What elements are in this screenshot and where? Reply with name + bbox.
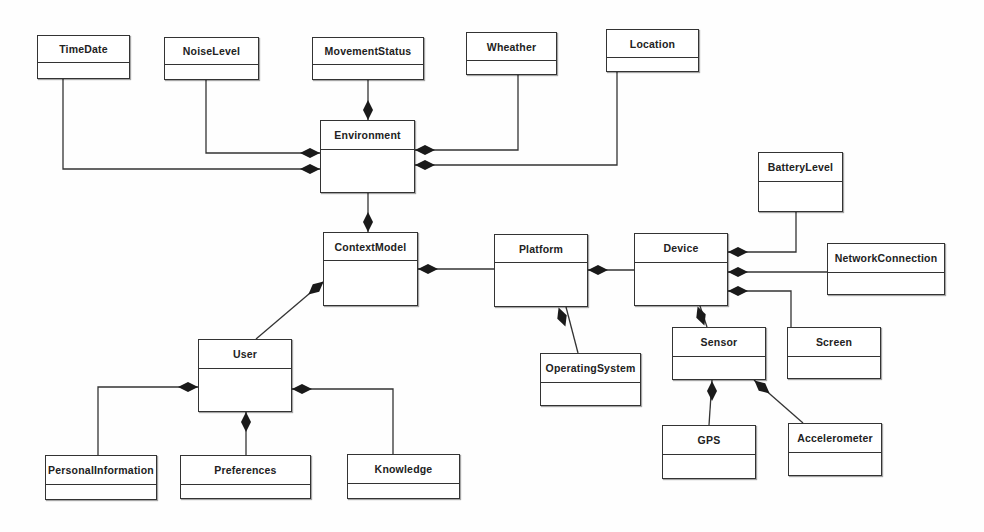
composition-diamond-icon (300, 148, 320, 158)
class-attributes-compartment (673, 357, 765, 379)
class-attributes-compartment (165, 65, 258, 79)
class-box-device[interactable]: Device (634, 233, 728, 306)
class-box-environment[interactable]: Environment (320, 120, 415, 193)
composition-contextmodel-environment (363, 193, 373, 232)
class-box-personalinformation[interactable]: PersonalInformation (45, 455, 157, 500)
composition-device-batterylevel (728, 212, 796, 257)
class-name: Accelerometer (789, 424, 881, 453)
class-name: Wheather (467, 33, 556, 61)
class-name: NoiseLevel (165, 38, 258, 65)
class-name: OperatingSystem (541, 354, 640, 383)
class-name: BatteryLevel (759, 153, 842, 182)
composition-user-preferences (241, 412, 251, 455)
class-box-preferences[interactable]: Preferences (180, 455, 311, 499)
class-attributes-compartment (495, 263, 587, 306)
class-box-contextmodel[interactable]: ContextModel (323, 232, 418, 306)
composition-platform-device (588, 265, 634, 275)
composition-diamond-icon (588, 265, 608, 275)
composition-diamond-icon (728, 286, 748, 296)
class-attributes-compartment (324, 261, 417, 305)
composition-diamond-icon (415, 160, 435, 170)
composition-environment-wheather (415, 75, 518, 155)
composition-diamond-icon (554, 306, 570, 328)
composition-environment-noiselevel (206, 80, 320, 158)
class-name: Location (607, 30, 698, 58)
composition-user-personalinformation (98, 382, 198, 455)
class-attributes-compartment (46, 485, 156, 499)
class-name: User (199, 340, 291, 369)
composition-diamond-icon (418, 264, 438, 274)
composition-diamond-icon (292, 384, 312, 394)
class-box-operatingsystem[interactable]: OperatingSystem (540, 353, 641, 406)
composition-platform-operatingsystem (554, 306, 578, 353)
class-name: Knowledge (348, 455, 459, 484)
composition-sensor-gps (707, 380, 717, 425)
class-box-location[interactable]: Location (606, 29, 699, 72)
class-attributes-compartment (635, 263, 727, 305)
class-box-gps[interactable]: GPS (662, 425, 756, 479)
class-attributes-compartment (663, 455, 755, 478)
class-name: TimeDate (38, 36, 129, 63)
class-name: Sensor (673, 328, 765, 357)
class-name: Environment (321, 121, 414, 150)
composition-diamond-icon (363, 212, 373, 232)
class-attributes-compartment (789, 453, 881, 475)
class-box-movementstatus[interactable]: MovementStatus (312, 37, 424, 80)
class-name: GPS (663, 426, 755, 455)
class-box-networkconnection[interactable]: NetworkConnection (827, 243, 945, 295)
composition-diamond-icon (300, 164, 320, 174)
composition-diamond-icon (415, 145, 435, 155)
composition-diamond-icon (241, 412, 251, 432)
class-attributes-compartment (321, 150, 414, 192)
composition-diamond-icon (363, 100, 373, 120)
class-name: PersonalInformation (46, 456, 156, 485)
class-attributes-compartment (541, 383, 640, 405)
class-box-sensor[interactable]: Sensor (672, 327, 766, 380)
class-box-batterylevel[interactable]: BatteryLevel (758, 152, 843, 212)
class-attributes-compartment (788, 357, 880, 378)
class-attributes-compartment (199, 369, 291, 411)
class-name: NetworkConnection (828, 244, 944, 273)
composition-environment-location (415, 72, 617, 170)
composition-diamond-icon (728, 247, 748, 257)
class-name: Screen (788, 328, 880, 357)
class-box-noiselevel[interactable]: NoiseLevel (164, 37, 259, 80)
class-box-platform[interactable]: Platform (494, 234, 588, 307)
class-box-user[interactable]: User (198, 339, 292, 412)
composition-diamond-icon (728, 267, 748, 277)
class-attributes-compartment (38, 63, 129, 78)
class-attributes-compartment (467, 61, 556, 74)
class-attributes-compartment (348, 484, 459, 498)
composition-contextmodel-platform (418, 264, 494, 274)
composition-sensor-accelerometer (751, 377, 803, 423)
class-name: Preferences (181, 456, 310, 485)
composition-user-knowledge (292, 384, 393, 454)
composition-contextmodel-user (256, 278, 327, 339)
class-box-screen[interactable]: Screen (787, 327, 881, 379)
class-name: Platform (495, 235, 587, 263)
uml-diagram-canvas: TimeDateNoiseLevelMovementStatusWheather… (0, 0, 984, 532)
class-box-timedate[interactable]: TimeDate (37, 35, 130, 79)
class-name: MovementStatus (313, 38, 423, 65)
composition-environment-timedate (63, 79, 320, 174)
class-name: Device (635, 234, 727, 263)
class-name: ContextModel (324, 233, 417, 261)
class-box-accelerometer[interactable]: Accelerometer (788, 423, 882, 476)
class-attributes-compartment (759, 182, 842, 211)
class-attributes-compartment (181, 485, 310, 498)
class-attributes-compartment (828, 273, 944, 294)
class-attributes-compartment (313, 65, 423, 79)
composition-diamond-icon (178, 382, 198, 392)
composition-environment-movementstatus (363, 80, 373, 120)
composition-device-sensor (693, 305, 709, 327)
composition-diamond-icon (707, 381, 717, 401)
class-box-wheather[interactable]: Wheather (466, 32, 557, 75)
class-attributes-compartment (607, 58, 698, 71)
class-box-knowledge[interactable]: Knowledge (347, 454, 460, 499)
composition-device-screen (728, 286, 791, 327)
